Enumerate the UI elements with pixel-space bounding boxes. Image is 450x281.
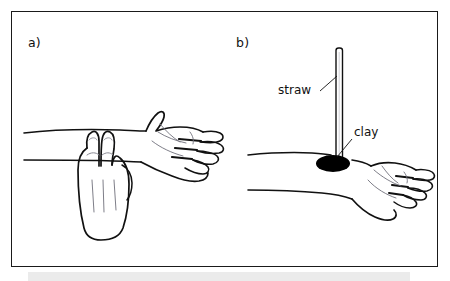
clay-callout-label: clay (354, 125, 378, 139)
straw-callout-label: straw (278, 83, 311, 97)
figure-root: a) b) straw clay (0, 0, 450, 281)
panel-label-b: b) (236, 35, 249, 50)
figure-border (11, 11, 438, 267)
panel-label-a: a) (28, 35, 41, 50)
page-shadow-band (28, 272, 410, 281)
